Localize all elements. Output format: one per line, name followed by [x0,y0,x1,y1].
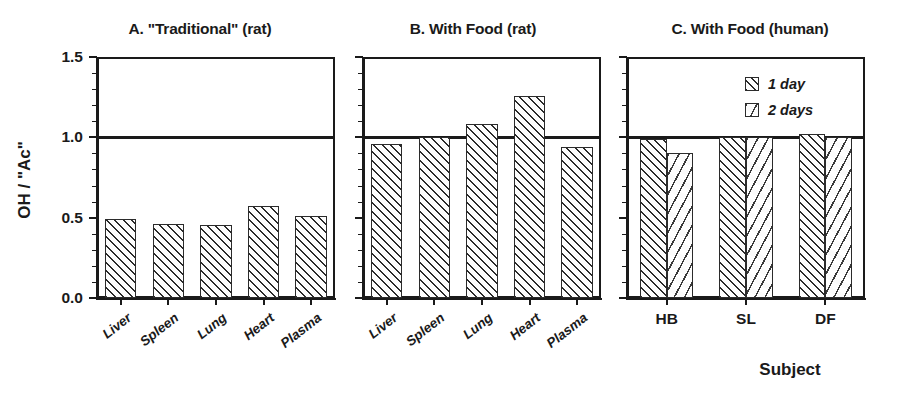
bar [561,147,592,298]
bar-2-days [746,137,773,298]
legend-item: 1 day [745,76,805,92]
bar [371,144,402,298]
x-axis-category-label: SL [736,310,756,328]
y-axis-line [96,57,98,300]
bar [419,137,450,298]
x-axis-line [626,298,866,300]
bar [200,225,231,298]
legend-swatch-1-day [745,77,759,91]
bar [466,124,497,298]
legend-swatch-2-days [745,103,759,117]
panel-c-title: C. With Food (human) [610,20,890,38]
x-axis-category-label: DF [815,310,836,328]
bar [105,219,136,298]
y-axis-line [626,57,628,300]
bar-2-days [667,153,694,298]
legend-item: 2 days [745,102,813,118]
y-axis-line [362,57,364,300]
bar-1-day [719,137,746,298]
bar-1-day [799,134,826,298]
bar-1-day [640,139,667,298]
x-axis-title: Subject [759,360,820,380]
x-axis-line [362,298,602,300]
y-tick-label: 0.0 [39,289,83,307]
x-axis-line [96,298,336,300]
y-tick-label: 0.5 [39,209,83,227]
reference-line-1 [97,136,335,139]
legend-label: 2 days [768,102,813,118]
legend-label: 1 day [768,76,805,92]
y-tick-label: 1.0 [39,128,83,146]
bar [295,216,326,298]
y-tick-label: 1.5 [39,48,83,66]
figure-root: OH / "Ac" A. "Traditional" (rat) B. With… [0,0,909,403]
bar [248,206,279,298]
bar [514,96,545,298]
bar-2-days [825,137,852,298]
bar [153,224,184,298]
x-axis-category-label: HB [655,310,677,328]
